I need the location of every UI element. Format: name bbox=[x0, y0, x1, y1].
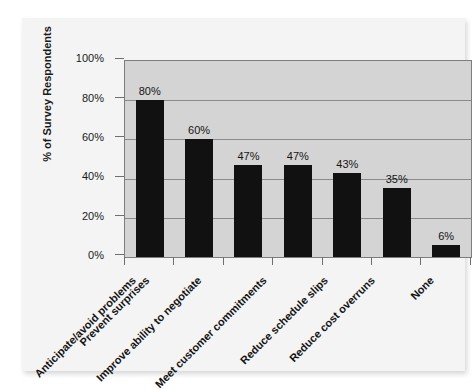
bar-group: 47% bbox=[224, 61, 273, 257]
y-axis-tick-mark bbox=[115, 97, 124, 98]
y-axis-tick-label: 80% bbox=[62, 92, 104, 104]
bar bbox=[136, 100, 164, 257]
bar bbox=[284, 165, 312, 257]
y-axis-tick-mark bbox=[115, 136, 124, 137]
bar-group: 43% bbox=[323, 61, 372, 257]
bar-value-label: 47% bbox=[237, 150, 259, 163]
y-axis-tick-label: 60% bbox=[62, 131, 104, 143]
y-axis-tick-labels: 100% 80% 60% 40% 20% 0% bbox=[62, 52, 104, 264]
x-axis-category-label: None bbox=[408, 274, 436, 302]
y-axis-tick-mark bbox=[115, 58, 124, 59]
x-axis-category-label: Improve ability to negotiate bbox=[94, 274, 204, 384]
bar-group: 47% bbox=[273, 61, 322, 257]
x-axis-category-label: Reduce cost overruns bbox=[287, 274, 377, 364]
y-axis-tick-label: 40% bbox=[62, 170, 104, 182]
bar-value-label: 43% bbox=[336, 158, 358, 171]
x-axis-category-label: Anticipate/avoid problems bbox=[32, 274, 138, 380]
y-axis-title: % of Survey Respondents bbox=[41, 9, 63, 179]
bar-group: 35% bbox=[372, 61, 421, 257]
plot-area: 80% 60% 47% 47% 43% bbox=[124, 60, 472, 258]
bar-value-label: 35% bbox=[386, 173, 408, 186]
y-axis-tick-mark bbox=[115, 215, 124, 216]
bar-group: 60% bbox=[174, 61, 223, 257]
x-axis-category-label: Meet customer commitments bbox=[153, 274, 269, 389]
y-axis-tick-marks bbox=[115, 58, 124, 258]
bar bbox=[383, 188, 411, 257]
bar-value-label: 60% bbox=[188, 124, 210, 137]
bar bbox=[185, 139, 213, 257]
y-axis-tick-mark bbox=[115, 176, 124, 177]
bar bbox=[234, 165, 262, 257]
y-axis-tick-label: 0% bbox=[62, 249, 104, 261]
bar-value-label: 80% bbox=[139, 85, 161, 98]
x-axis-tick-mark bbox=[470, 257, 471, 265]
y-axis-tick-label: 20% bbox=[62, 210, 104, 222]
bar bbox=[333, 173, 361, 257]
x-axis-category-labels: Anticipate/avoid problems Prevent surpri… bbox=[22, 264, 465, 371]
bars-layer: 80% 60% 47% 47% 43% bbox=[125, 61, 471, 257]
y-axis-tick-label: 100% bbox=[62, 52, 104, 64]
bar-chart-figure: % of Survey Respondents 100% 80% 60% 40%… bbox=[22, 18, 465, 371]
y-axis-tick-mark bbox=[115, 254, 124, 255]
bar bbox=[432, 245, 460, 257]
bar-value-label: 6% bbox=[438, 230, 454, 243]
bar-value-label: 47% bbox=[287, 150, 309, 163]
bar-group: 80% bbox=[125, 61, 174, 257]
bar-group: 6% bbox=[421, 61, 470, 257]
scanned-page-card: % of Survey Respondents 100% 80% 60% 40%… bbox=[22, 18, 465, 371]
